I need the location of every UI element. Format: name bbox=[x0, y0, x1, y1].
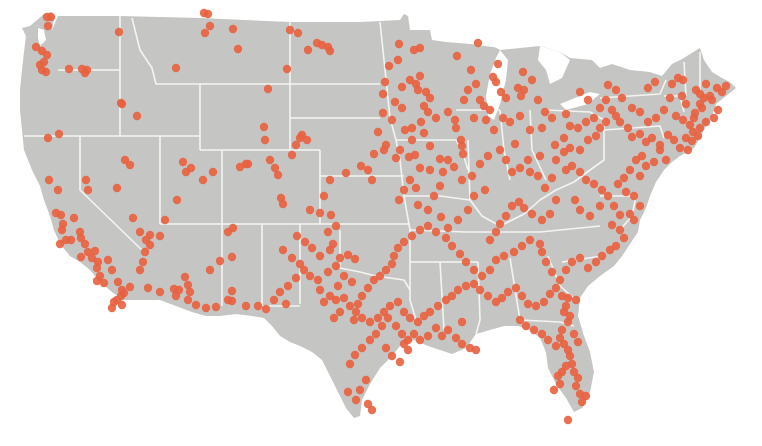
location-dot bbox=[70, 214, 78, 222]
location-dot bbox=[526, 126, 534, 134]
location-dot bbox=[453, 52, 461, 60]
location-dot bbox=[508, 202, 516, 210]
location-dot bbox=[538, 248, 546, 256]
location-dot bbox=[234, 45, 242, 53]
location-dot bbox=[351, 351, 359, 359]
location-dot bbox=[576, 168, 584, 176]
location-dot bbox=[279, 200, 287, 208]
location-dot bbox=[206, 266, 214, 274]
location-dot bbox=[676, 144, 684, 152]
location-dot bbox=[502, 212, 510, 220]
location-dot bbox=[500, 252, 508, 260]
location-dot bbox=[352, 308, 360, 316]
location-dot bbox=[358, 292, 366, 300]
location-dot bbox=[486, 266, 494, 274]
location-dot bbox=[596, 124, 604, 132]
location-dot bbox=[444, 108, 452, 116]
location-dot bbox=[702, 118, 710, 126]
location-dot bbox=[689, 128, 697, 136]
location-dot bbox=[454, 286, 462, 294]
location-dot bbox=[356, 386, 364, 394]
location-dot bbox=[362, 376, 370, 384]
location-dot bbox=[56, 240, 64, 248]
location-dot bbox=[596, 202, 604, 210]
location-dot bbox=[384, 314, 392, 322]
location-dot bbox=[396, 146, 404, 154]
location-dot bbox=[454, 216, 462, 224]
location-dot bbox=[396, 358, 404, 366]
location-dot bbox=[358, 314, 366, 322]
location-dot bbox=[408, 136, 416, 144]
location-dot bbox=[584, 136, 592, 144]
location-dot bbox=[604, 192, 612, 200]
location-dot bbox=[552, 284, 560, 292]
location-dot bbox=[364, 284, 372, 292]
location-dot bbox=[294, 29, 302, 37]
location-dot bbox=[606, 246, 614, 254]
location-dot bbox=[202, 304, 210, 312]
location-dot bbox=[524, 300, 532, 308]
location-dot bbox=[540, 298, 548, 306]
location-dot bbox=[566, 144, 574, 152]
location-dot bbox=[308, 244, 316, 252]
location-dot bbox=[652, 114, 660, 122]
location-dot bbox=[576, 88, 584, 96]
location-dot bbox=[366, 336, 374, 344]
location-dot bbox=[486, 236, 494, 244]
location-dot bbox=[276, 288, 284, 296]
location-dot bbox=[414, 86, 422, 94]
location-dot bbox=[326, 47, 334, 55]
location-dot bbox=[115, 28, 123, 36]
location-dot bbox=[229, 224, 237, 232]
location-dot bbox=[382, 266, 390, 274]
location-dot bbox=[608, 221, 616, 229]
location-dot bbox=[560, 134, 568, 142]
location-dot bbox=[426, 94, 434, 102]
location-dot bbox=[77, 253, 85, 261]
location-dot bbox=[530, 326, 538, 334]
location-dot bbox=[628, 104, 636, 112]
location-dot bbox=[228, 297, 236, 305]
location-dot bbox=[398, 104, 406, 112]
location-dot bbox=[612, 86, 620, 94]
location-dot bbox=[374, 128, 382, 136]
location-dot bbox=[574, 374, 582, 382]
location-dot bbox=[388, 352, 396, 360]
location-dot bbox=[538, 216, 546, 224]
location-dot bbox=[628, 133, 636, 141]
location-dot bbox=[426, 142, 434, 150]
location-dot bbox=[626, 166, 634, 174]
location-dot bbox=[512, 284, 520, 292]
location-dot bbox=[496, 146, 504, 154]
location-dot bbox=[602, 118, 610, 126]
location-dot bbox=[546, 210, 554, 218]
location-dot bbox=[204, 10, 212, 18]
location-dot bbox=[84, 186, 92, 194]
location-dot bbox=[702, 80, 710, 88]
location-dot bbox=[566, 352, 574, 360]
location-dot bbox=[352, 396, 360, 404]
location-dot bbox=[556, 276, 564, 284]
location-dot bbox=[372, 330, 380, 338]
location-dot bbox=[541, 184, 549, 192]
location-dot bbox=[458, 318, 466, 326]
location-dot bbox=[630, 192, 638, 200]
location-dot bbox=[284, 282, 292, 290]
location-dot bbox=[370, 276, 378, 284]
location-dot bbox=[320, 192, 328, 200]
location-dot bbox=[518, 242, 526, 250]
location-dot bbox=[199, 176, 207, 184]
location-dot bbox=[156, 232, 164, 240]
location-dot bbox=[326, 246, 334, 254]
location-dot bbox=[481, 186, 489, 194]
location-dot bbox=[186, 288, 194, 296]
location-dot bbox=[484, 292, 492, 300]
location-dot bbox=[83, 66, 91, 74]
location-dot bbox=[179, 158, 187, 166]
location-dot bbox=[679, 116, 687, 124]
location-dot bbox=[434, 302, 442, 310]
location-dot bbox=[144, 284, 152, 292]
location-dot bbox=[391, 98, 399, 106]
location-dot bbox=[412, 184, 420, 192]
location-dot bbox=[411, 151, 419, 159]
